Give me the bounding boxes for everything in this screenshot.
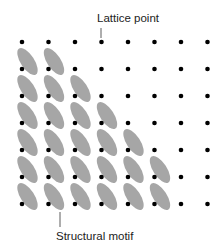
structural-motif: [93, 99, 121, 132]
lattice-point: [179, 94, 184, 99]
lattice-point: [126, 121, 131, 126]
lattice-point: [126, 94, 131, 99]
structural-motif: [40, 126, 68, 159]
lattice-point: [152, 40, 157, 45]
structural-motif-label: Structural motif: [56, 231, 133, 243]
lattice-point: [73, 175, 78, 180]
lattice-point: [99, 40, 104, 45]
structural-motif: [93, 126, 121, 159]
structural-motifs: [13, 45, 174, 213]
lattice-point: [20, 148, 25, 153]
lattice-point: [152, 202, 157, 207]
structural-motif: [66, 72, 94, 105]
lattice-point: [152, 121, 157, 126]
structural-motif: [13, 99, 41, 132]
lattice-point: [46, 94, 51, 99]
lattice-point: [46, 175, 51, 180]
lattice-point: [73, 121, 78, 126]
lattice-point: [205, 94, 210, 99]
lattice-point: [73, 40, 78, 45]
structural-motif: [93, 153, 121, 186]
lattice-point: [126, 40, 131, 45]
lattice-point: [73, 148, 78, 153]
lattice-point: [126, 175, 131, 180]
lattice-point: [20, 94, 25, 99]
structural-motif: [66, 99, 94, 132]
lattice-point: [99, 94, 104, 99]
lattice-point: [20, 121, 25, 126]
lattice-point: [205, 175, 210, 180]
structural-motif: [40, 72, 68, 105]
lattice-point: [73, 67, 78, 72]
structural-motif: [40, 99, 68, 132]
structural-motif: [93, 180, 121, 213]
lattice-diagram: [0, 0, 224, 251]
structural-motif: [13, 180, 41, 213]
structural-motif: [13, 126, 41, 159]
structural-motif: [66, 153, 94, 186]
structural-motif: [66, 126, 94, 159]
lattice-point: [99, 175, 104, 180]
lattice-point: [152, 94, 157, 99]
structural-motif: [119, 126, 147, 159]
lattice-point: [99, 67, 104, 72]
lattice-point: [205, 148, 210, 153]
lattice-point: [46, 40, 51, 45]
lattice-point: [152, 148, 157, 153]
lattice-point: [179, 121, 184, 126]
structural-motif: [146, 153, 174, 186]
lattice-point: [126, 67, 131, 72]
lattice-point: [73, 94, 78, 99]
lattice-point: [179, 202, 184, 207]
structural-motif: [40, 45, 68, 78]
lattice-point: [20, 40, 25, 45]
lattice-point: [46, 202, 51, 207]
lattice-point: [73, 202, 78, 207]
structural-motif: [13, 153, 41, 186]
lattice-point: [179, 67, 184, 72]
structural-motif: [146, 180, 174, 213]
structural-motif: [40, 180, 68, 213]
lattice-point: [179, 40, 184, 45]
structural-motif: [66, 180, 94, 213]
lattice-point-label: Lattice point: [97, 13, 159, 25]
lattice-point: [205, 67, 210, 72]
lattice-point: [99, 202, 104, 207]
lattice-point: [179, 148, 184, 153]
lattice-point: [46, 121, 51, 126]
structural-motif: [13, 45, 41, 78]
structural-motif: [13, 72, 41, 105]
lattice-point: [99, 148, 104, 153]
lattice-point: [126, 202, 131, 207]
lattice-point: [152, 67, 157, 72]
lattice-point: [179, 175, 184, 180]
lattice-point: [20, 202, 25, 207]
lattice-point: [205, 202, 210, 207]
structural-motif: [119, 180, 147, 213]
structural-motif: [119, 153, 147, 186]
structural-motif: [40, 153, 68, 186]
lattice-point: [46, 67, 51, 72]
lattice-point: [126, 148, 131, 153]
lattice-point: [46, 148, 51, 153]
lattice-point: [20, 175, 25, 180]
lattice-point: [152, 175, 157, 180]
lattice-point: [20, 67, 25, 72]
lattice-point: [205, 40, 210, 45]
lattice-point: [205, 121, 210, 126]
lattice-point: [99, 121, 104, 126]
